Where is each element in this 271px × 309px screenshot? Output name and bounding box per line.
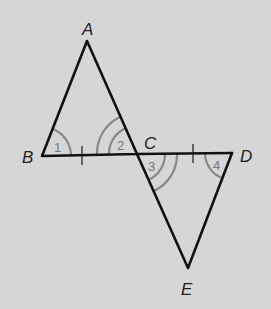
angle-label-1: 1 bbox=[54, 140, 61, 155]
diagram-svg: A B C D E 1 2 3 4 bbox=[0, 0, 271, 309]
geometry-diagram: A B C D E 1 2 3 4 bbox=[0, 0, 271, 309]
angle-label-3: 3 bbox=[148, 159, 155, 174]
angle-label-2: 2 bbox=[117, 138, 124, 153]
angle-label-4: 4 bbox=[213, 158, 220, 173]
segment-cd bbox=[137, 153, 232, 154]
vertex-label-c: C bbox=[144, 134, 157, 153]
vertex-label-e: E bbox=[181, 280, 193, 299]
vertex-label-b: B bbox=[22, 148, 33, 167]
vertex-label-a: A bbox=[81, 20, 93, 39]
vertex-label-d: D bbox=[240, 147, 252, 166]
